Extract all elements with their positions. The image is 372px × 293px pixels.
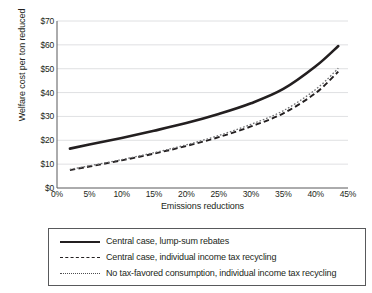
axis-lines (57, 21, 348, 188)
legend-item-dashed: Central case, individual income tax recy… (58, 250, 276, 264)
series-line (70, 72, 338, 171)
legend-swatch-dotted-line-icon (58, 267, 102, 279)
series-line (70, 46, 338, 149)
legend-label-2: No tax-favored consumption, individual i… (106, 268, 336, 278)
legend-item-dotted: No tax-favored consumption, individual i… (58, 266, 336, 280)
legend-swatch-dashed-line-icon (58, 251, 102, 263)
legend-box: Central case, lump-sum rebates Central c… (48, 228, 366, 286)
legend-swatch-solid-line-icon (58, 235, 102, 247)
data-curves (70, 46, 338, 170)
legend-label-0: Central case, lump-sum rebates (106, 236, 229, 246)
legend-label-1: Central case, individual income tax recy… (106, 252, 276, 262)
chart-figure: Welfare cost per ton reduced $0$10$20$30… (0, 0, 372, 293)
legend-item-solid: Central case, lump-sum rebates (58, 234, 229, 248)
